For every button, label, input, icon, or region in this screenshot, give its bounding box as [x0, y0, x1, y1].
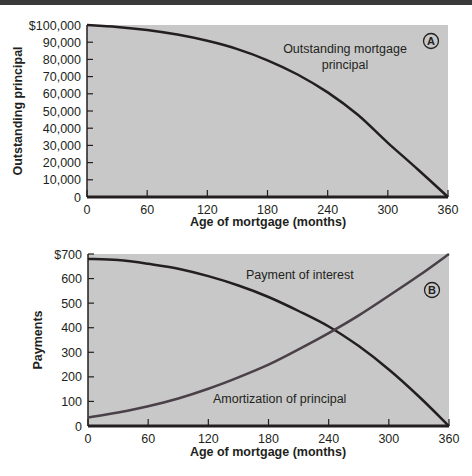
y-tick-label: 100 — [61, 395, 82, 409]
y-tick-label: 70,000 — [43, 70, 81, 84]
x-tick-label: 60 — [141, 432, 155, 446]
x-tick-label: 120 — [198, 432, 219, 446]
badge-b-text: B — [428, 284, 436, 296]
y-tick-label: $100,000 — [29, 19, 81, 33]
y-axis-a: 010,00020,00030,00040,00050,00060,00070,… — [29, 19, 93, 205]
x-axis-title-b: Age of mortgage (months) — [190, 445, 346, 459]
x-tick-label: 300 — [378, 432, 399, 446]
y-axis-title-a: Outstanding principal — [11, 46, 25, 175]
chart-payments: 0100200300400500600$700 0601201802403003… — [31, 248, 459, 460]
principal-label: Amortization of principal — [213, 392, 346, 406]
y-tick-label: 0 — [75, 420, 82, 434]
y-tick-label: 60,000 — [43, 87, 81, 101]
x-tick-label: 0 — [85, 432, 92, 446]
y-tick-label: 10,000 — [43, 173, 81, 187]
x-tick-label: 180 — [258, 432, 279, 446]
y-tick-label: 30,000 — [43, 139, 81, 153]
x-tick-label: 0 — [84, 203, 91, 217]
y-tick-label: 600 — [61, 272, 82, 286]
y-axis-title-b: Payments — [31, 310, 45, 369]
x-tick-label: 60 — [140, 203, 154, 217]
y-tick-label: 400 — [61, 321, 82, 335]
x-tick-label: 360 — [438, 203, 459, 217]
outstanding-label-line2: principal — [322, 58, 369, 72]
x-tick-label: 360 — [439, 432, 460, 446]
x-tick-label: 240 — [318, 432, 339, 446]
y-tick-label: 300 — [61, 346, 82, 360]
x-axis-title-a: Age of mortgage (months) — [190, 215, 346, 229]
y-tick-label: 500 — [61, 297, 82, 311]
interest-label: Payment of interest — [246, 268, 354, 282]
badge-a-text: A — [427, 35, 435, 47]
x-tick-label: 300 — [377, 203, 398, 217]
y-tick-label: 90,000 — [43, 36, 81, 50]
mortgage-charts: 010,00020,00030,00040,00050,00060,00070,… — [0, 0, 472, 476]
y-tick-label: 50,000 — [43, 105, 81, 119]
outstanding-label-line1: Outstanding mortgage — [283, 42, 407, 56]
y-tick-label: 0 — [74, 191, 81, 205]
y-tick-label: $700 — [54, 248, 82, 262]
chart-outstanding-principal: 010,00020,00030,00040,00050,00060,00070,… — [11, 19, 458, 230]
y-tick-label: 80,000 — [43, 53, 81, 67]
y-tick-label: 20,000 — [43, 156, 81, 170]
y-tick-label: 200 — [61, 370, 82, 384]
y-tick-label: 40,000 — [43, 122, 81, 136]
